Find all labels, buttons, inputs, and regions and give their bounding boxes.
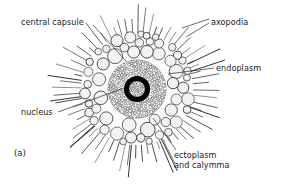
- nucleus: [127, 79, 148, 100]
- label-endoplasm: endoplasm: [216, 64, 261, 74]
- label-central-capsule: central capsule: [21, 18, 84, 28]
- label-ectoplasm-line2: and calymma: [174, 161, 230, 171]
- radiolarian-illustration: [0, 0, 291, 185]
- radiolarian-figure: central capsule axopodia endoplasm nucle…: [0, 0, 291, 185]
- label-axopodia: axopodia: [211, 18, 248, 28]
- label-ectoplasm-and-calymma: ectoplasm and calymma: [174, 151, 230, 170]
- label-nucleus: nucleus: [21, 108, 53, 118]
- axopodia-leader-upper: [182, 19, 209, 28]
- axopodia-leader-lower: [186, 23, 209, 37]
- figure-caption-letter: (a): [14, 148, 26, 158]
